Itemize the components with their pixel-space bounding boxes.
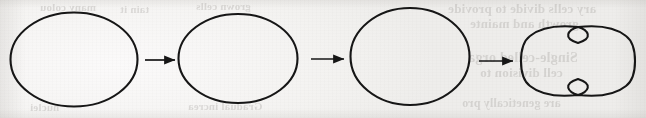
diagram-line-art: [0, 0, 646, 118]
stage-shapes-group: [11, 8, 636, 107]
connector-arrows-group: [145, 59, 513, 61]
cell-stage-3: [351, 8, 470, 105]
cell-division-figure: ary cells divide to provide growth and m…: [0, 0, 646, 118]
cell-stage-1: [11, 13, 138, 107]
cell-stage-4-dividing: [521, 26, 635, 95]
cell-stage-2: [179, 14, 298, 103]
